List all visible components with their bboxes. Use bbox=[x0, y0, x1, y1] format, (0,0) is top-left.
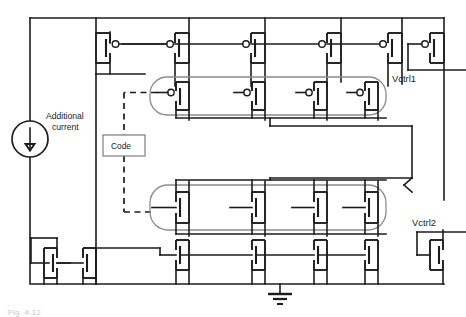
pmos-top-2 bbox=[122, 18, 189, 86]
pmos-bank-2 bbox=[234, 82, 265, 120]
nmos-bottom-3 bbox=[256, 240, 327, 284]
code-block[interactable]: Code bbox=[103, 135, 145, 156]
figure-caption: Fig. 4.12 bbox=[8, 308, 41, 317]
pmos-top-5 bbox=[327, 18, 402, 86]
circuit-schematic-figure: Additional current bbox=[0, 0, 466, 317]
additional-current-label-line2: current bbox=[52, 122, 79, 132]
schematic-canvas: Additional current bbox=[0, 0, 466, 317]
nmos-bottom-2 bbox=[180, 240, 265, 284]
additional-current-branch bbox=[12, 18, 48, 283]
nmos-bottom-1 bbox=[96, 240, 189, 284]
nmos-left-mirror bbox=[57, 248, 96, 284]
nmos-bank-2 bbox=[230, 180, 265, 236]
nmos-bank-4 bbox=[343, 180, 378, 236]
vctrl2-label-text: Vctrl2 bbox=[412, 217, 436, 228]
ground-symbol bbox=[268, 294, 292, 304]
pmos-bank-source-tie bbox=[176, 118, 412, 178]
code-block-label: Code bbox=[111, 141, 131, 151]
nmos-left-diode bbox=[31, 238, 70, 284]
vctrl2-label: Vctrl2 bbox=[412, 217, 436, 228]
additional-current-label: Additional current bbox=[46, 111, 84, 132]
vctrl1-pmos bbox=[408, 18, 466, 200]
pmos-bank-3 bbox=[296, 82, 327, 120]
additional-current-label-line1: Additional bbox=[46, 111, 84, 121]
nmos-bank-3 bbox=[292, 180, 327, 236]
vctrl1-return-path bbox=[404, 178, 412, 192]
vctrl1-label-text: Vctrl1 bbox=[392, 73, 416, 84]
vctrl1-label: Vctrl1 bbox=[392, 73, 416, 84]
vctrl2-nmos bbox=[417, 230, 466, 284]
bottom-rail bbox=[30, 284, 444, 294]
